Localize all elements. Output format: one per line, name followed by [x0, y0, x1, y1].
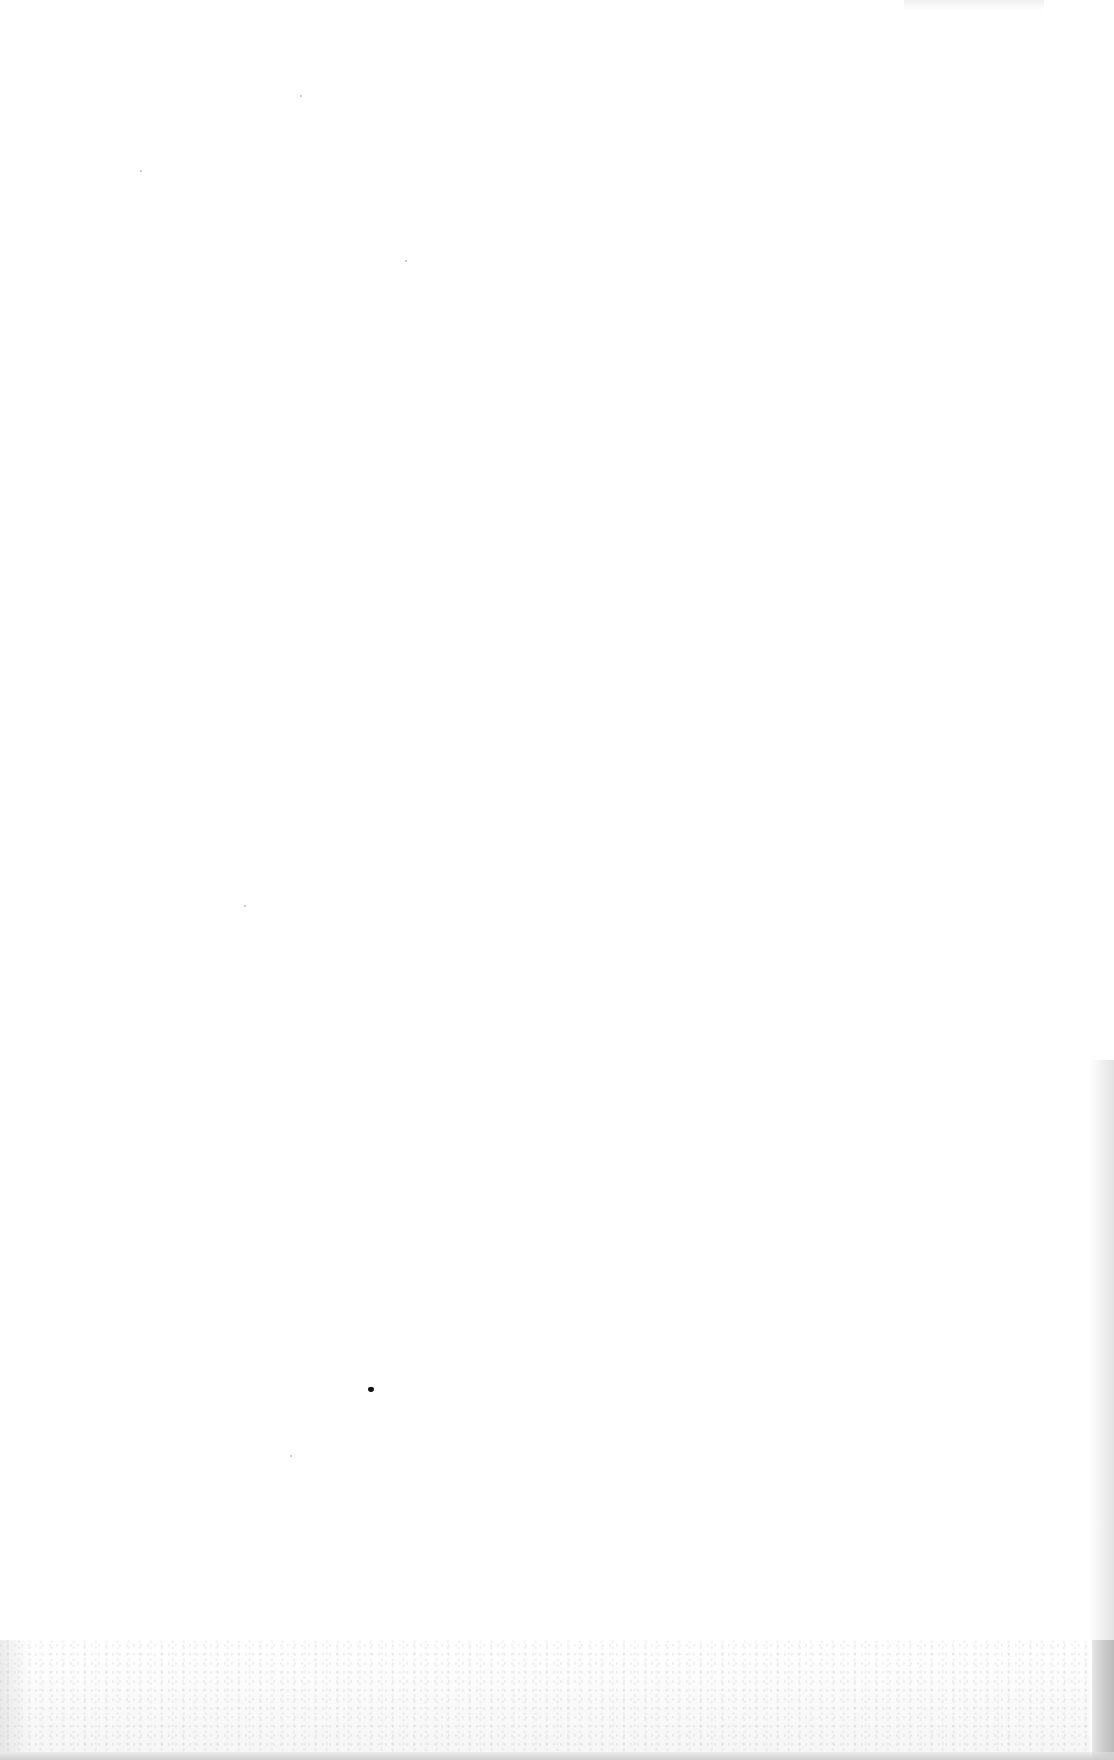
ink-speck — [368, 1387, 374, 1392]
dust-speck — [244, 905, 246, 907]
dust-speck — [140, 170, 142, 172]
scan-grain-left — [0, 1640, 30, 1752]
dust-speck — [405, 260, 407, 262]
scan-smudge — [904, 0, 1044, 10]
dust-speck — [300, 95, 302, 97]
scan-grain — [0, 1640, 1090, 1752]
blank-page — [0, 0, 1114, 1760]
right-edge-shadow-lower — [1092, 1640, 1114, 1760]
dust-speck — [290, 1455, 292, 1457]
bottom-edge-shadow — [0, 1752, 1114, 1760]
